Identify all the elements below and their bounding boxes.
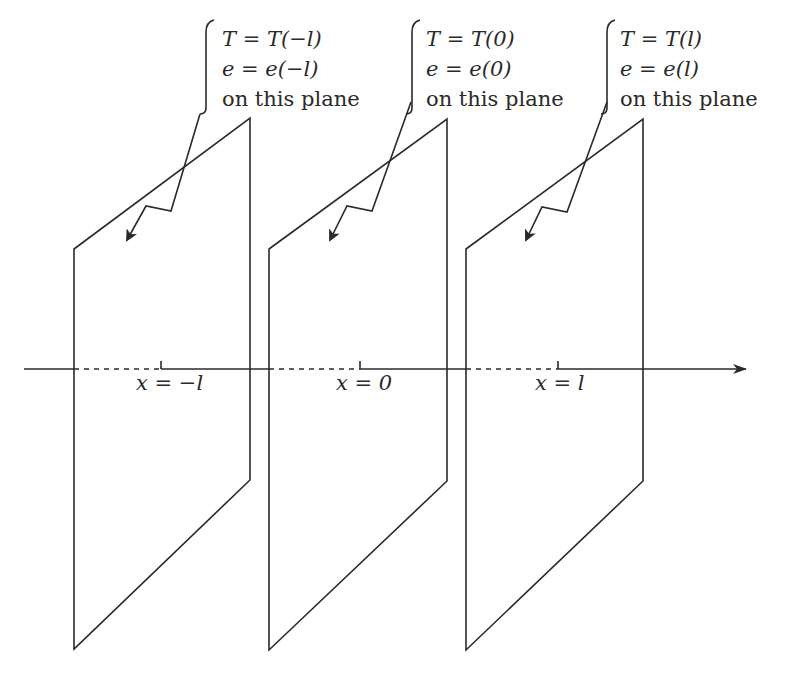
- position-label-l: x = l: [535, 371, 585, 395]
- position-label-neg-l: x = −l: [136, 371, 203, 395]
- annotation-l: T = T(l) e = e(l) on this plane: [526, 20, 758, 240]
- brace-icon: [200, 20, 214, 114]
- svg-text:e = e(l): e = e(l): [620, 57, 699, 81]
- brace-icon: [601, 20, 615, 114]
- annotation-neg-l: T = T(−l) e = e(−l) on this plane: [127, 20, 360, 240]
- svg-text:e = e(0): e = e(0): [426, 57, 512, 81]
- svg-text:T = T(0): T = T(0): [426, 27, 515, 51]
- svg-text:on this plane: on this plane: [222, 87, 360, 111]
- leader-arrow-icon: [330, 102, 411, 240]
- leader-arrow-icon: [127, 114, 200, 240]
- brace-icon: [406, 20, 420, 114]
- svg-text:e = e(−l): e = e(−l): [222, 57, 319, 81]
- position-label-zero: x = 0: [336, 371, 392, 395]
- leader-arrow-icon: [526, 102, 607, 240]
- svg-text:on this plane: on this plane: [426, 87, 564, 111]
- svg-text:T = T(l): T = T(l): [620, 27, 702, 51]
- svg-text:T = T(−l): T = T(−l): [222, 27, 322, 51]
- x-axis: [24, 361, 746, 369]
- diagram-canvas: x = −l x = 0 x = l T = T(−l) e = e(−l) o…: [0, 0, 787, 678]
- svg-text:on this plane: on this plane: [620, 87, 758, 111]
